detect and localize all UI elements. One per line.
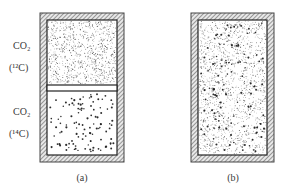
diagram-graphics <box>0 0 283 196</box>
container-a <box>40 13 124 162</box>
caption-b: (b) <box>218 172 248 183</box>
diffusion-diagram: CO₂ (¹²C) CO₂ (¹⁴C) (a) (b) <box>0 0 283 196</box>
caption-a: (a) <box>67 172 97 183</box>
lower-gas-label: CO₂ <box>13 106 30 118</box>
upper-gas-label: CO₂ <box>13 40 30 52</box>
lower-isotope-label: (¹⁴C) <box>9 128 29 140</box>
partition <box>47 85 117 91</box>
upper-isotope-label: (¹²C) <box>9 62 28 74</box>
container-b <box>191 13 274 162</box>
